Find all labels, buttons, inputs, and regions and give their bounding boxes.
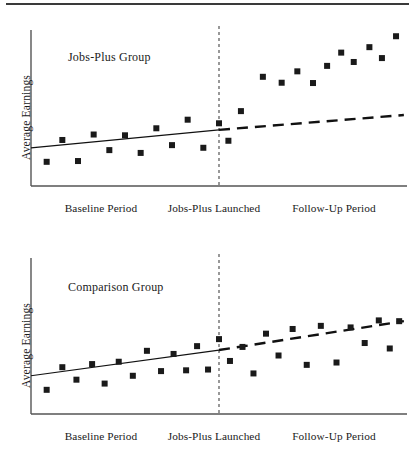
top-horizontal-rule (6, 3, 409, 5)
x-tick-baseline-period: Baseline Period (65, 202, 138, 214)
group-title: Jobs-Plus Group (68, 50, 151, 65)
x-tick-jobs-plus-launched: Jobs-Plus Launched (168, 202, 260, 214)
figure-canvas: Average Earnings Jobs-Plus Group Baselin… (0, 0, 415, 456)
group-title: Comparison Group (68, 280, 164, 295)
y-axis-label: Average Earnings (20, 248, 36, 388)
x-tick-baseline-period: Baseline Period (65, 430, 138, 442)
x-tick-follow-up-period: Follow-Up Period (292, 202, 376, 214)
chart-panel-jobs-plus: Average Earnings Jobs-Plus Group Baselin… (0, 12, 415, 228)
plot-area-comparison (0, 240, 415, 456)
y-axis-label: Average Earnings (20, 20, 36, 160)
x-tick-follow-up-period: Follow-Up Period (292, 430, 376, 442)
plot-area-jobs-plus (0, 12, 415, 228)
chart-panel-comparison: Average Earnings Comparison Group Baseli… (0, 240, 415, 456)
x-tick-jobs-plus-launched: Jobs-Plus Launched (168, 430, 260, 442)
